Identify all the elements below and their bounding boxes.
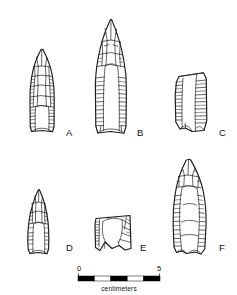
scale-min-label: 0 <box>77 264 81 273</box>
scale-segment-2 <box>94 276 110 281</box>
figure-plate: A <box>0 0 237 295</box>
specimen-label-d: D <box>66 242 73 253</box>
specimen-a-drawing <box>30 49 54 131</box>
specimen-label-b: B <box>137 127 143 138</box>
specimen-e-drawing <box>95 216 131 251</box>
scale-max-label: 5 <box>157 264 161 273</box>
specimen-label-c: C <box>219 127 226 138</box>
specimen-f-outline <box>173 159 206 254</box>
scale-segment-1 <box>78 276 94 281</box>
specimen-b-drawing <box>95 19 126 133</box>
specimen-f-drawing <box>173 159 206 254</box>
specimen-d-drawing <box>28 190 49 254</box>
scale-segment-3 <box>111 276 127 281</box>
specimen-label-f: F <box>219 242 225 253</box>
scale-bar: 0 5 centimeters <box>77 264 161 292</box>
scale-segment-4 <box>127 276 143 281</box>
scale-unit-caption: centimeters <box>101 285 137 292</box>
artifact-illustration: A <box>0 0 237 295</box>
specimen-c-drawing <box>175 73 207 132</box>
specimen-label-e: E <box>140 242 146 253</box>
specimen-label-a: A <box>66 127 73 138</box>
scale-segment-5 <box>144 276 160 281</box>
